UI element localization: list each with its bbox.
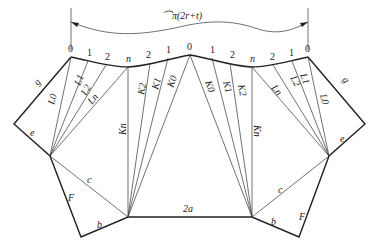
line-label: K0 [164,74,179,90]
line-label: Ln [269,81,285,97]
line-label: Kn [252,124,263,137]
edge-label-2a: 2a [183,203,193,214]
point-label: 0 [187,41,192,52]
point-label: 1 [210,44,215,55]
point-label: n [250,53,255,64]
point-label: 1 [289,47,294,58]
dimension-curve [71,22,308,34]
line-label: K2 [135,82,148,96]
point-label: 2 [146,49,151,60]
arrow-left-icon [71,22,79,27]
point-label: 1 [166,44,171,55]
edge-label-g-left: g [31,76,43,87]
line-label: K0 [203,78,218,94]
point-label: 1 [87,47,92,58]
right-fan-L0 [308,57,329,156]
point-label: 2 [105,51,110,62]
point-label: 0 [68,43,73,54]
edge-label-e-right: e [340,133,345,144]
development-diagram: ⌒π(2r+t) 0 1 2 n 2 1 0 1 2 n 2 1 0 L0 L1… [0,0,375,248]
edge-label-c-left: c [87,174,92,185]
line-label: L0 [318,92,332,106]
edge-label-b-left: b [97,219,102,230]
dimension-label: ⌒π(2r+t) [162,10,203,22]
line-label: K1 [221,79,235,94]
arrow-right-icon [300,22,308,27]
edge-label-g-right: g [340,74,352,85]
edge-label-b-right: b [271,216,276,227]
line-label: K1 [149,76,163,91]
line-label: L0 [45,92,59,106]
edge-label-F-right: F [298,211,306,222]
point-label: n [126,53,131,64]
edge-label-F-left: F [67,192,75,203]
edge-label-c-right: c [278,184,283,195]
line-label: K2 [236,82,249,96]
edge-label-e-left: e [30,127,35,138]
point-label: 2 [230,49,235,60]
point-label: 2 [270,51,275,62]
line-label: Kn [117,123,128,136]
left-fan-L0 [50,57,71,156]
left-fan-Ln [50,67,128,156]
center-right-K0 [190,55,252,217]
point-label: 0 [305,43,310,54]
